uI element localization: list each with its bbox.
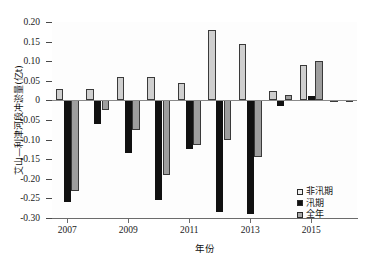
legend-swatch-year-icon <box>297 212 303 218</box>
legend-label-flood: 汛期 <box>306 198 324 210</box>
x-tick-label: 2015 <box>302 225 321 235</box>
x-tick-mark <box>128 218 129 223</box>
bar-nonflood <box>56 89 63 101</box>
bar-year <box>132 100 139 129</box>
zero-baseline <box>52 100 357 101</box>
legend-label-nonflood: 非汛期 <box>306 186 333 198</box>
bar-flood <box>216 100 223 212</box>
y-tick-label: -0.25 <box>0 193 40 203</box>
bar-year <box>193 100 200 145</box>
bar-flood <box>155 100 162 200</box>
bar-year <box>224 100 231 139</box>
y-tick-label: 0.20 <box>0 17 40 27</box>
y-tick-label: -0.05 <box>0 115 40 125</box>
x-tick-mark <box>250 218 251 223</box>
bar-nonflood <box>269 91 276 101</box>
x-tick-mark <box>189 218 190 223</box>
legend-label-year: 全年 <box>306 209 324 221</box>
bar-nonflood <box>117 77 124 101</box>
legend-item-nonflood: 非汛期 <box>297 186 333 198</box>
bar-flood <box>186 100 193 149</box>
bar-flood <box>247 100 254 214</box>
y-tick-label: -0.15 <box>0 154 40 164</box>
bar-nonflood <box>208 30 215 101</box>
x-tick-label: 2007 <box>58 225 77 235</box>
bar-year <box>71 100 78 190</box>
x-tick-mark <box>67 218 68 223</box>
y-tick-label: -0.10 <box>0 135 40 145</box>
bar-nonflood <box>147 77 154 101</box>
x-tick-label: 2011 <box>180 225 199 235</box>
bar-flood <box>125 100 132 153</box>
bar-year <box>254 100 261 157</box>
bar-nonflood <box>300 65 307 100</box>
bar-nonflood <box>178 83 185 101</box>
y-tick-label: 0.10 <box>0 56 40 66</box>
legend-swatch-nonflood-icon <box>297 189 303 195</box>
x-axis-title: 年份 <box>52 241 358 255</box>
y-tick-label: 0.05 <box>0 76 40 86</box>
bar-year <box>315 61 322 100</box>
legend-swatch-flood-icon <box>297 200 303 206</box>
y-tick-label: 0 <box>0 95 40 105</box>
x-tick-label: 2013 <box>241 225 260 235</box>
legend-item-flood: 汛期 <box>297 198 333 210</box>
bar-year <box>102 100 109 110</box>
bar-flood <box>94 100 101 124</box>
x-tick-label: 2009 <box>119 225 138 235</box>
bar-year <box>163 100 170 174</box>
chart-legend: 非汛期 汛期 全年 <box>297 186 333 221</box>
bar-nonflood <box>86 89 93 101</box>
bar-nonflood <box>239 44 246 101</box>
bar-flood <box>64 100 71 202</box>
y-tick-label: 0.15 <box>0 37 40 47</box>
legend-item-year: 全年 <box>297 209 333 221</box>
chart-figure: 艾山—利津河段冲淤量(亿t) 0.200.150.100.050-0.05-0.… <box>0 0 387 264</box>
y-tick-label: -0.20 <box>0 174 40 184</box>
y-tick-label: -0.30 <box>0 213 40 223</box>
